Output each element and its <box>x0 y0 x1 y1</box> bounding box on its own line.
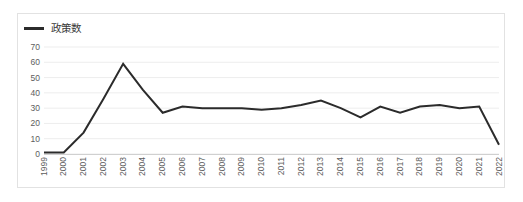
x-axis-tick-label: 2006 <box>178 157 187 176</box>
x-axis-tick-label: 2012 <box>297 157 306 176</box>
gridlines <box>44 47 499 154</box>
y-axis-tick-label: 40 <box>18 89 40 98</box>
x-axis-tick-label: 2009 <box>237 157 246 176</box>
y-axis-tick-label: 50 <box>18 73 40 82</box>
x-axis-tick-label: 2016 <box>376 157 385 176</box>
y-axis-labels: 010203040506070 <box>18 47 40 154</box>
x-axis-tick-label: 2015 <box>356 157 365 176</box>
x-axis-tick-label: 2020 <box>455 157 464 176</box>
y-axis-tick-label: 10 <box>18 134 40 143</box>
y-axis-tick-label: 0 <box>18 150 40 159</box>
y-axis-tick-label: 60 <box>18 58 40 67</box>
x-axis-tick-label: 2011 <box>277 157 286 175</box>
y-axis-tick-label: 30 <box>18 104 40 113</box>
x-axis-tick-label: 2018 <box>415 157 424 176</box>
x-axis-tick-label: 2004 <box>138 157 147 176</box>
x-axis-tick-label: 2019 <box>435 157 444 176</box>
x-axis-labels: 1999200020012002200320042005200620072008… <box>44 157 499 187</box>
series-canvas <box>44 47 499 154</box>
y-axis-tick-label: 70 <box>18 43 40 52</box>
line-chart: 政策数 010203040506070 19992000200120022003… <box>0 0 523 202</box>
x-axis-tick-label: 2003 <box>119 157 128 176</box>
x-axis-tick-label: 2001 <box>79 157 88 176</box>
x-axis-tick-label: 1999 <box>40 157 49 176</box>
x-axis-tick-label: 2005 <box>158 157 167 176</box>
x-axis-tick-label: 2002 <box>99 157 108 176</box>
x-axis-line <box>44 154 499 155</box>
x-axis-tick-label: 2022 <box>495 157 504 176</box>
legend-label: 政策数 <box>51 23 81 34</box>
y-axis-tick-label: 20 <box>18 119 40 128</box>
x-axis-tick-label: 2017 <box>396 157 405 176</box>
x-axis-tick-label: 2010 <box>257 157 266 176</box>
x-axis-tick-label: 2013 <box>316 157 325 176</box>
x-axis-tick-label: 2000 <box>59 157 68 176</box>
plot-area <box>44 47 499 154</box>
x-axis-tick-label: 2008 <box>218 157 227 176</box>
x-axis-tick-label: 2014 <box>336 157 345 176</box>
x-axis-tick-label: 2021 <box>475 157 484 176</box>
line-swatch-icon <box>24 27 44 30</box>
x-axis-tick-label: 2007 <box>198 157 207 176</box>
chart-legend: 政策数 <box>24 21 81 35</box>
